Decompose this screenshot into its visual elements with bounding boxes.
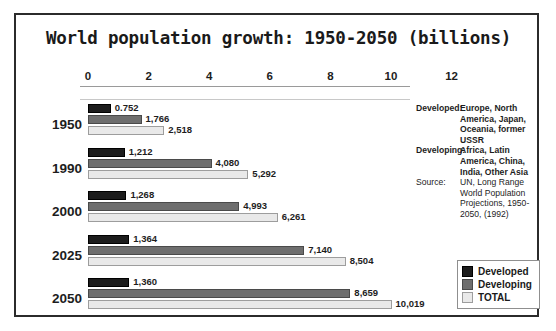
legend-swatch-icon	[462, 266, 473, 277]
bar-developed-2000	[88, 191, 126, 200]
bar-developed-1950	[88, 104, 111, 113]
x-axis-rule-secondary	[80, 99, 410, 100]
note-label: Source:	[416, 177, 460, 219]
bar-value-label: 8,504	[350, 255, 374, 266]
bar-developing-1950	[88, 115, 142, 124]
legend-item-developing[interactable]: Developing	[462, 278, 534, 291]
x-tick-label-4: 4	[206, 70, 212, 82]
note-row: Source:UN, Long Range World Population P…	[416, 177, 546, 219]
bar-total-2050	[88, 300, 392, 309]
bar-value-label: 1,268	[130, 189, 154, 200]
note-row: Developing:Africa, Latin America, China,…	[416, 145, 546, 177]
x-tick-label-8: 8	[327, 70, 333, 82]
bar-value-label: 1,212	[129, 146, 153, 157]
note-row: Developed:Europe, North America, Japan, …	[416, 103, 546, 145]
note-label: Developing:	[416, 145, 460, 177]
note-text: UN, Long Range World Population Projecti…	[460, 177, 546, 219]
bar-value-label: 6,261	[282, 211, 306, 222]
bar-value-label: 0.752	[115, 102, 139, 113]
bar-total-2025	[88, 257, 346, 266]
x-axis-rule	[80, 86, 410, 87]
chart-screenshot: World population growth: 1950-2050 (bill…	[0, 0, 556, 331]
bar-total-1950	[88, 126, 164, 135]
category-label-1990: 1990	[36, 161, 82, 176]
chart-frame: World population growth: 1950-2050 (bill…	[14, 13, 539, 317]
bar-value-label: 2,518	[168, 124, 192, 135]
bar-developed-2050	[88, 278, 129, 287]
bar-value-label: 7,140	[308, 244, 332, 255]
legend-swatch-icon	[462, 292, 473, 303]
bar-value-label: 1,364	[133, 233, 157, 244]
category-label-2050: 2050	[36, 291, 82, 306]
legend-item-total[interactable]: TOTAL	[462, 291, 534, 304]
bar-value-label: 4,993	[243, 200, 267, 211]
x-tick-label-6: 6	[267, 70, 273, 82]
notes-panel: Developed:Europe, North America, Japan, …	[416, 103, 546, 220]
category-label-1950: 1950	[36, 117, 82, 132]
bar-developing-2050	[88, 289, 350, 298]
legend-label: TOTAL	[478, 292, 510, 303]
note-text: Africa, Latin America, China, India, Oth…	[460, 145, 546, 177]
bar-value-label: 8,659	[354, 287, 378, 298]
x-tick-label-0: 0	[85, 70, 91, 82]
bar-total-2000	[88, 213, 278, 222]
bar-value-label: 1,360	[133, 276, 157, 287]
legend: DevelopedDevelopingTOTAL	[457, 260, 540, 309]
bar-value-label: 1,766	[146, 113, 170, 124]
bar-developed-1990	[88, 148, 125, 157]
bar-value-label: 5,292	[252, 168, 276, 179]
legend-label: Developing	[478, 279, 532, 290]
note-text: Europe, North America, Japan, Oceania, f…	[460, 103, 546, 145]
x-tick-label-12: 12	[445, 70, 458, 82]
bar-developed-2025	[88, 235, 129, 244]
legend-label: Developed	[478, 266, 529, 277]
legend-swatch-icon	[462, 279, 473, 290]
bar-developing-1990	[88, 159, 212, 168]
note-label: Developed:	[416, 103, 460, 145]
x-tick-label-2: 2	[145, 70, 151, 82]
legend-item-developed[interactable]: Developed	[462, 265, 534, 278]
bar-value-label: 4,080	[216, 157, 240, 168]
bar-developing-2000	[88, 202, 239, 211]
category-label-2000: 2000	[36, 204, 82, 219]
bar-total-1990	[88, 170, 248, 179]
category-label-2025: 2025	[36, 248, 82, 263]
bar-value-label: 10,019	[396, 298, 425, 309]
x-tick-label-10: 10	[385, 70, 398, 82]
bar-developing-2025	[88, 246, 304, 255]
